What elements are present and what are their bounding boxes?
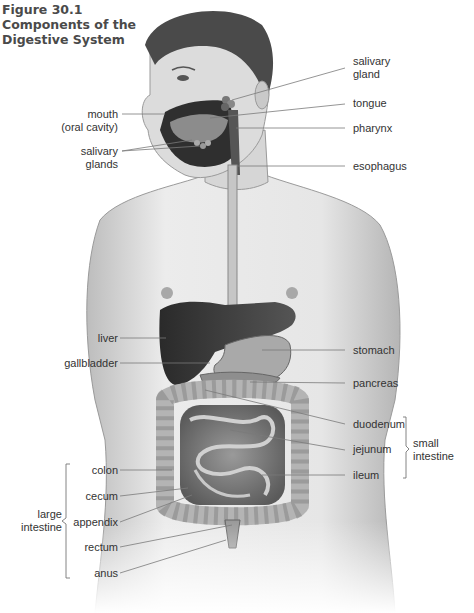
label-jejunum: jejunum <box>353 443 392 456</box>
label-pharynx: pharynx <box>353 122 392 135</box>
label-small-intestine: small intestine <box>413 437 454 463</box>
label-tongue: tongue <box>353 97 387 110</box>
label-stomach: stomach <box>353 344 395 357</box>
label-appendix: appendix <box>73 516 118 529</box>
digestive-system-illustration <box>0 0 474 613</box>
label-gallbladder: gallbladder <box>64 357 118 370</box>
label-anus: anus <box>94 567 118 580</box>
label-mouth: mouth (oral cavity) <box>61 108 118 134</box>
label-salivary-gland: salivary gland <box>353 55 390 81</box>
label-esophagus: esophagus <box>353 160 407 173</box>
label-duodenum: duodenum <box>353 418 405 431</box>
label-large-intestine: large intestine <box>21 508 62 534</box>
label-salivary-glands: salivary glands <box>81 145 118 171</box>
label-cecum: cecum <box>86 490 118 503</box>
label-colon: colon <box>92 464 118 477</box>
label-ileum: ileum <box>353 469 379 482</box>
label-rectum: rectum <box>84 541 118 554</box>
label-pancreas: pancreas <box>353 377 398 390</box>
label-liver: liver <box>98 332 118 345</box>
